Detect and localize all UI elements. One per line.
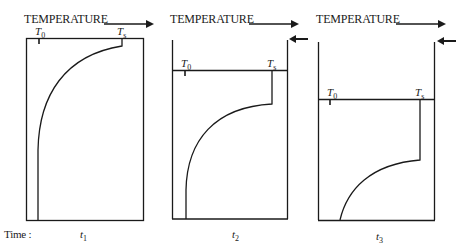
panel-2-drawing [172,20,308,219]
time-t1: t1 [80,228,87,243]
time-label: Time : [4,228,31,240]
arrow-head-icon [146,20,154,28]
temperature-profile-2 [186,70,272,219]
arrow-head-icon [291,20,299,28]
temperature-label-3: TEMPERATURE [316,12,400,27]
arrow-left-icon [437,37,444,45]
arrow-head-icon [438,20,446,28]
t0-label-2: T0 [181,57,191,72]
arrow-left-icon [289,35,296,43]
temperature-label-2: TEMPERATURE [170,12,254,27]
t0-label-1: T0 [35,25,45,40]
time-t3: t3 [376,230,383,245]
panel-1-drawing [27,20,155,221]
time-t2: t2 [232,228,239,243]
ts-label-2: Ts [267,57,276,72]
container-box-1 [27,39,144,221]
panel-3-drawing [318,20,456,221]
ts-label-1: Ts [117,25,126,40]
ts-label-3: Ts [415,86,424,101]
temperature-profile-1 [38,38,122,220]
temperature-profile-3 [340,99,420,220]
t0-label-3: T0 [327,86,337,101]
diagram-canvas [0,0,473,251]
